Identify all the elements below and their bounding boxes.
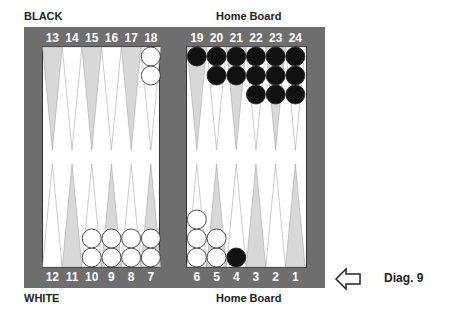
black-checker[interactable] bbox=[266, 85, 285, 104]
point-number-21: 21 bbox=[226, 31, 246, 45]
point-number-22: 22 bbox=[246, 31, 266, 45]
black-checker[interactable] bbox=[227, 248, 246, 267]
point-number-1: 1 bbox=[285, 270, 305, 284]
diagram-label: Diag. 9 bbox=[384, 271, 423, 285]
black-checker[interactable] bbox=[207, 47, 226, 66]
point-number-5: 5 bbox=[207, 270, 227, 284]
black-checker[interactable] bbox=[227, 66, 246, 85]
black-checker[interactable] bbox=[286, 47, 305, 66]
point-number-14: 14 bbox=[62, 31, 82, 45]
black-checker[interactable] bbox=[227, 47, 246, 66]
point-number-3: 3 bbox=[246, 270, 266, 284]
point-number-24: 24 bbox=[285, 31, 305, 45]
black-checker[interactable] bbox=[286, 85, 305, 104]
point-number-2: 2 bbox=[266, 270, 286, 284]
point-number-17: 17 bbox=[121, 31, 141, 45]
white-checker[interactable] bbox=[102, 248, 121, 267]
point-number-18: 18 bbox=[141, 31, 161, 45]
point-number-23: 23 bbox=[266, 31, 286, 45]
white-checker[interactable] bbox=[207, 248, 226, 267]
black-checker[interactable] bbox=[207, 66, 226, 85]
board-points bbox=[0, 0, 450, 316]
white-checker[interactable] bbox=[82, 229, 101, 248]
black-checker[interactable] bbox=[187, 47, 206, 66]
black-checker[interactable] bbox=[246, 66, 265, 85]
white-checker[interactable] bbox=[187, 210, 206, 229]
black-checker[interactable] bbox=[266, 47, 285, 66]
left-arrow-icon[interactable] bbox=[334, 267, 364, 291]
point-number-16: 16 bbox=[101, 31, 121, 45]
point-number-9: 9 bbox=[101, 270, 121, 284]
point-number-7: 7 bbox=[141, 270, 161, 284]
point-number-12: 12 bbox=[42, 270, 62, 284]
white-checker[interactable] bbox=[141, 47, 160, 66]
point-number-8: 8 bbox=[121, 270, 141, 284]
white-checker[interactable] bbox=[187, 229, 206, 248]
black-checker[interactable] bbox=[246, 85, 265, 104]
white-checker[interactable] bbox=[122, 229, 141, 248]
point-number-20: 20 bbox=[207, 31, 227, 45]
point-number-4: 4 bbox=[226, 270, 246, 284]
white-checker[interactable] bbox=[102, 229, 121, 248]
point-number-19: 19 bbox=[187, 31, 207, 45]
point-number-10: 10 bbox=[82, 270, 102, 284]
point-number-11: 11 bbox=[62, 270, 82, 284]
black-checker[interactable] bbox=[286, 66, 305, 85]
point-number-6: 6 bbox=[187, 270, 207, 284]
black-checker[interactable] bbox=[246, 47, 265, 66]
white-checker[interactable] bbox=[141, 66, 160, 85]
point-number-13: 13 bbox=[42, 31, 62, 45]
white-checker[interactable] bbox=[141, 229, 160, 248]
point-number-15: 15 bbox=[82, 31, 102, 45]
white-checker[interactable] bbox=[141, 248, 160, 267]
black-checker[interactable] bbox=[266, 66, 285, 85]
white-checker[interactable] bbox=[122, 248, 141, 267]
white-checker[interactable] bbox=[82, 248, 101, 267]
white-checker[interactable] bbox=[187, 248, 206, 267]
white-checker[interactable] bbox=[207, 229, 226, 248]
